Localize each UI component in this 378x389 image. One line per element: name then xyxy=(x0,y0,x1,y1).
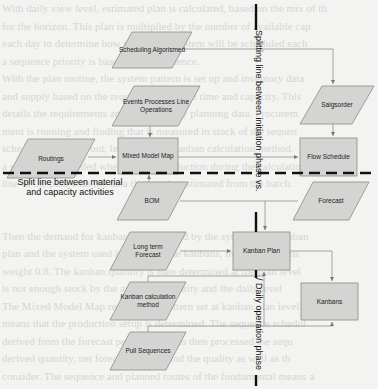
edge-bom-kanbanplan xyxy=(180,201,265,230)
node-salgsorder-label: Salgsorder xyxy=(306,88,368,122)
horizontal-split-label: Split line between material and capacity… xyxy=(14,177,126,197)
node-bom-label: BOM xyxy=(122,184,182,218)
edge-pull-kanbans xyxy=(148,322,332,332)
node-pull-label: Pull Sequences xyxy=(124,334,172,368)
node-routings-label: Routings xyxy=(16,141,86,176)
node-kanbancalc-label: Kanban calculation method xyxy=(120,284,176,318)
node-flowschedule-label: Flow Schedule xyxy=(300,138,357,176)
edge-kanbanplan-kanbans xyxy=(290,251,332,281)
node-ltforecast-label: Long term Forecast xyxy=(122,234,174,268)
node-forecast-label: Forecast xyxy=(300,184,362,218)
node-kanbans-label: Kanbans xyxy=(301,283,358,320)
vertical-split-label-top: Splitting line between initiation phase … xyxy=(254,30,264,192)
vertical-split-label-bottom: / Daily operation phase xyxy=(254,278,264,370)
edge-kanbancalc-kanbanplan xyxy=(148,272,264,283)
node-mixedmodel-label: Mixed Model Map xyxy=(118,138,178,174)
node-kanbanplan-label: Kanban Plan xyxy=(233,232,290,270)
node-events-label: Events Processes Line Operations xyxy=(118,88,194,124)
node-scheduling-label: Scheduling Algorismed xyxy=(118,34,186,66)
